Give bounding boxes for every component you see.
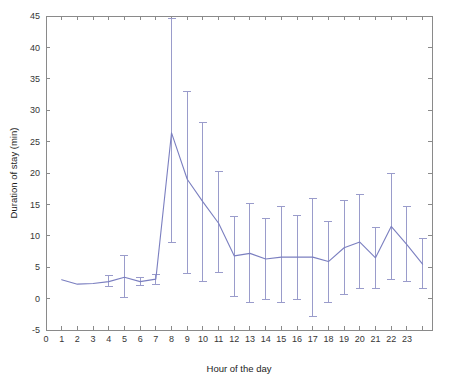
error-bars-group: [105, 19, 427, 317]
x-tick-label: 3: [91, 334, 96, 344]
y-tick-label: 30: [30, 105, 40, 115]
plot-frame: [46, 16, 432, 330]
x-tick-label: 1: [59, 334, 64, 344]
x-axis-ticks: 01234567891011121314151617181920212223: [43, 16, 422, 344]
x-tick-label: 9: [185, 334, 190, 344]
y-axis-ticks: -5051015202530354045: [30, 11, 432, 335]
x-tick-label: 22: [386, 334, 396, 344]
y-tick-label: 0: [35, 294, 40, 304]
y-tick-label: 45: [30, 11, 40, 21]
x-tick-label: 19: [339, 334, 349, 344]
x-tick-label: 10: [198, 334, 208, 344]
y-tick-label: 5: [35, 262, 40, 272]
plot-axes-frame: [46, 16, 432, 330]
y-tick-label: 40: [30, 43, 40, 53]
x-tick-label: 16: [292, 334, 302, 344]
y-axis-title: Duration of stay (min): [8, 128, 19, 219]
x-tick-label: 5: [122, 334, 127, 344]
x-tick-label: 0: [43, 334, 48, 344]
x-tick-label: 13: [245, 334, 255, 344]
y-tick-label: 10: [30, 231, 40, 241]
x-tick-label: 11: [214, 334, 223, 344]
error-bar: [277, 206, 285, 302]
x-tick-label: 12: [229, 334, 239, 344]
x-tick-label: 6: [138, 334, 143, 344]
y-tick-label: -5: [32, 325, 40, 335]
x-tick-label: 21: [371, 334, 381, 344]
x-axis-title: Hour of the day: [207, 363, 272, 374]
x-tick-label: 20: [355, 334, 365, 344]
error-bar: [168, 19, 176, 243]
x-tick-label: 23: [402, 334, 412, 344]
x-tick-label: 2: [75, 334, 80, 344]
chart-figure: 01234567891011121314151617181920212223 -…: [0, 0, 454, 382]
y-tick-label: 15: [30, 200, 40, 210]
x-tick-label: 18: [323, 334, 333, 344]
duration-of-stay-line-chart: 01234567891011121314151617181920212223 -…: [0, 0, 454, 382]
y-tick-label: 35: [30, 74, 40, 84]
x-tick-label: 14: [261, 334, 271, 344]
series-polyline: [62, 133, 423, 284]
x-tick-label: 8: [169, 334, 174, 344]
x-tick-label: 15: [276, 334, 286, 344]
x-tick-label: 4: [106, 334, 111, 344]
error-bar: [215, 172, 223, 272]
y-tick-label: 25: [30, 137, 40, 147]
y-tick-label: 20: [30, 168, 40, 178]
x-tick-label: 17: [308, 334, 318, 344]
data-series-line: [62, 133, 423, 284]
x-tick-label: 7: [153, 334, 158, 344]
